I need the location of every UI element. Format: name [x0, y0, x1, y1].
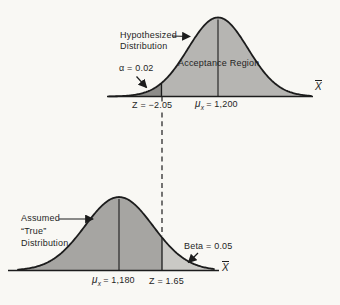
x-bar-axis-label-bottom: X: [222, 261, 229, 273]
assumed-true-distribution-label-line1: Assumed: [21, 213, 60, 223]
critical-z-label-bottom: Z = 1.65: [149, 276, 184, 286]
figure-hypothesis-test-diagram: Hypothesized Distribution Acceptance Reg…: [0, 0, 340, 305]
mean-value-bottom: = 1,180: [103, 275, 135, 285]
mean-label-top: μx= 1,200: [195, 99, 238, 110]
beta-label-arrow: [189, 253, 199, 263]
assumed-true-distribution-label-line2: “True”: [21, 226, 46, 236]
diagram-svg: [0, 0, 340, 305]
hypothesized-distribution-label-line2: Distribution: [120, 41, 167, 51]
hypothesized-distribution-label-line1: Hypothesized: [120, 30, 177, 40]
assumed-true-distribution-label-line3: Distribution: [21, 238, 68, 248]
critical-z-label-top: Z = −2.05: [132, 100, 172, 110]
mu-symbol-bottom: μ: [92, 274, 98, 285]
mean-value-top: = 1,200: [206, 99, 238, 109]
x-bar-axis-label-top: X: [315, 80, 322, 92]
acceptance-region-fill: [162, 18, 312, 97]
acceptance-region-label: Acceptance Region: [178, 58, 259, 68]
beta-value-label: Beta = 0.05: [184, 241, 233, 251]
mu-subscript-bottom: x: [98, 280, 101, 287]
alpha-value-label: α = 0.02: [119, 63, 154, 73]
mu-symbol-top: μ: [195, 98, 201, 109]
alpha-label-arrow: [137, 77, 147, 88]
mean-label-bottom: μx= 1,180: [92, 275, 135, 286]
mu-subscript-top: x: [201, 104, 204, 111]
distribution-curves-canvas: [0, 0, 340, 305]
